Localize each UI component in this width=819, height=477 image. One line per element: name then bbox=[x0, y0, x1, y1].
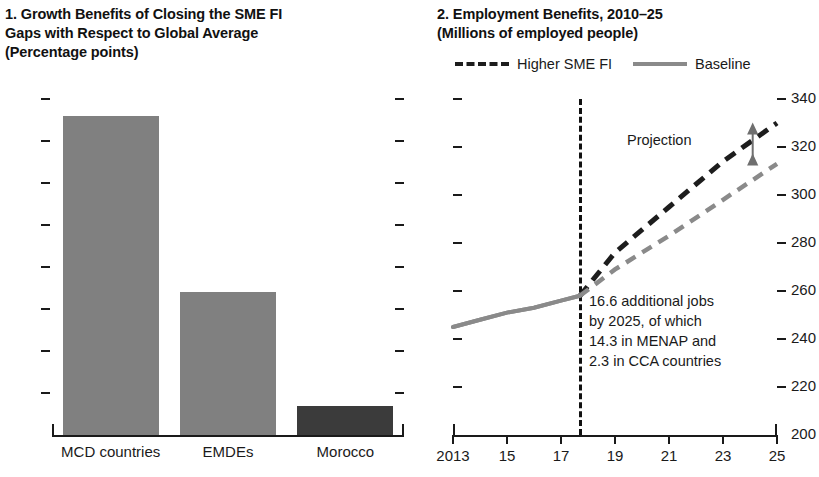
panel-1-y-tick-mark bbox=[41, 266, 50, 268]
panel-growth-benefits: 1. Growth Benefits of Closing the SME FI… bbox=[0, 0, 415, 477]
panel-2-y-tick-mark-left bbox=[453, 146, 462, 148]
panel-2-y-tick-label: 320 bbox=[791, 137, 816, 154]
panel-1-y-tick-mark bbox=[41, 350, 50, 352]
panel-1-category-label: MCD countries bbox=[52, 443, 169, 460]
panel-2-y-tick-mark-left bbox=[453, 194, 462, 196]
panel-1-y-tick-mark bbox=[41, 182, 50, 184]
panel-2-x-tick-mark bbox=[452, 435, 454, 444]
panel-1-y-tick-mark bbox=[41, 98, 50, 100]
panel-2-y-tick-mark-left bbox=[453, 98, 462, 100]
panel-2-y-tick-label: 300 bbox=[791, 185, 816, 202]
panel-1-title: 1. Growth Benefits of Closing the SME FI… bbox=[5, 5, 305, 62]
panel-2-y-tick-mark-left bbox=[453, 386, 462, 388]
panel-2-legend: Higher SME FI Baseline bbox=[437, 56, 807, 78]
bar-mcd-countries[interactable] bbox=[63, 116, 159, 435]
panel-2-x-tick-mark bbox=[668, 435, 670, 444]
panel-2-x-tick-label: 23 bbox=[693, 447, 753, 464]
panel-1-y-tick-mark bbox=[41, 224, 50, 226]
legend-item-higher-sme-fi[interactable]: Higher SME FI bbox=[455, 56, 612, 72]
panel-2-y-tick-mark-left bbox=[453, 338, 462, 340]
panel-2-y-tick-mark bbox=[777, 194, 786, 196]
dashed-line-swatch-icon bbox=[455, 62, 509, 66]
panel-2-y-tick-label: 260 bbox=[791, 281, 816, 298]
panel-2-y-tick-label: 220 bbox=[791, 377, 816, 394]
panel-2-x-tick-label: 21 bbox=[639, 447, 699, 464]
solid-line-swatch-icon bbox=[633, 62, 687, 66]
panel-2-x-tick-mark bbox=[614, 435, 616, 444]
annotation-projection: Projection bbox=[627, 130, 691, 150]
panel-1-category-label: EMDEs bbox=[169, 443, 286, 460]
panel-2-y-tick-mark-left bbox=[453, 242, 462, 244]
bar-emdes[interactable] bbox=[180, 292, 276, 435]
panel-2-y-tick-mark-left bbox=[453, 290, 462, 292]
legend-label-baseline: Baseline bbox=[695, 56, 751, 72]
panel-2-y-tick-mark bbox=[777, 386, 786, 388]
panel-2-x-tick-label: 15 bbox=[477, 447, 537, 464]
panel-2-y-tick-label: 340 bbox=[791, 89, 816, 106]
panel-2-y-tick-label: 240 bbox=[791, 329, 816, 346]
bar-morocco[interactable] bbox=[297, 406, 393, 435]
panel-2-y-tick-label: 280 bbox=[791, 233, 816, 250]
panel-2-x-tick-label: 2013 bbox=[423, 447, 483, 464]
panel-2-x-tick-label: 19 bbox=[585, 447, 645, 464]
panel-1-plot-area bbox=[52, 99, 404, 435]
annotation-additional-jobs: 16.6 additional jobs by 2025, of which 1… bbox=[589, 291, 789, 371]
panel-1-y-tick-mark bbox=[41, 308, 50, 310]
panel-1-y-tick-mark bbox=[41, 140, 50, 142]
legend-item-baseline[interactable]: Baseline bbox=[633, 56, 751, 72]
legend-label-higher-sme-fi: Higher SME FI bbox=[517, 56, 612, 72]
panel-2-x-tick-label: 25 bbox=[747, 447, 807, 464]
panel-1-category-label: Morocco bbox=[287, 443, 404, 460]
panel-2-y-tick-mark bbox=[777, 98, 786, 100]
panel-2-y-tick-mark bbox=[777, 146, 786, 148]
panel-2-x-tick-mark bbox=[560, 435, 562, 444]
panel-employment-benefits: 2. Employment Benefits, 2010–25 (Million… bbox=[415, 0, 819, 477]
panel-2-x-tick-label: 17 bbox=[531, 447, 591, 464]
panel-2-title: 2. Employment Benefits, 2010–25 (Million… bbox=[437, 5, 767, 43]
figure-container: 1. Growth Benefits of Closing the SME FI… bbox=[0, 0, 819, 477]
panel-2-x-tick-mark bbox=[776, 435, 778, 444]
panel-1-x-axis-line bbox=[52, 435, 404, 437]
panel-2-x-tick-mark bbox=[506, 435, 508, 444]
panel-2-x-tick-mark bbox=[722, 435, 724, 444]
panel-2-y-tick-mark bbox=[777, 242, 786, 244]
projection-divider-line bbox=[579, 99, 582, 435]
panel-1-y-tick-mark bbox=[41, 392, 50, 394]
panel-2-y-tick-label: 200 bbox=[791, 425, 816, 442]
